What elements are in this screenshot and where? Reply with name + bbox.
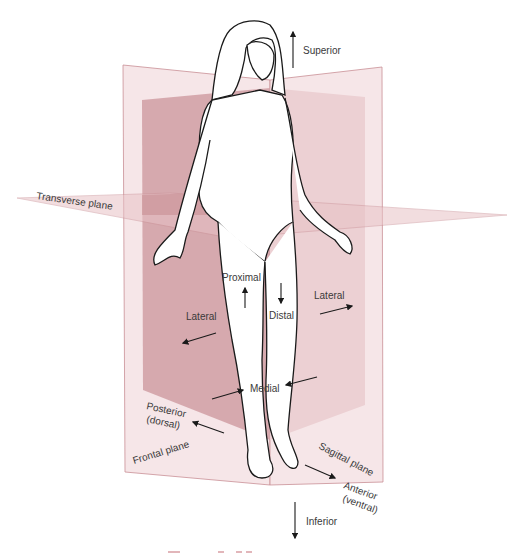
label-superior: Superior [303,45,341,56]
label-lateral-right: Lateral [314,290,345,301]
label-distal: Distal [269,310,294,321]
label-lateral-left: Lateral [186,311,217,322]
label-medial: Medial [250,383,279,394]
label-inferior: Inferior [306,516,338,527]
anatomy-diagram: Superior Inferior Proximal Distal Latera… [0,0,521,553]
label-proximal: Proximal [222,272,261,283]
